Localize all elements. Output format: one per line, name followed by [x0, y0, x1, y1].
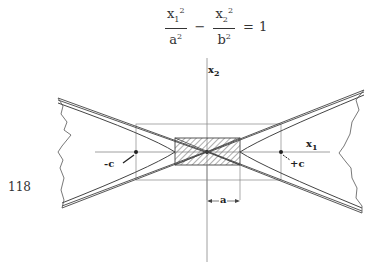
focus-left-arrow — [123, 155, 134, 163]
focus-right-point — [279, 150, 283, 154]
asymptote-upper-left — [58, 98, 207, 152]
focus-left-point — [134, 150, 138, 154]
hyperbola-left-branch — [58, 103, 175, 203]
dimension-label-a: a — [219, 194, 227, 205]
asymptote-upper-right — [207, 90, 364, 152]
hyperbola-right-branch — [240, 95, 364, 208]
asymptote-lower-right — [207, 152, 362, 213]
x2-axis-label: x2 — [208, 64, 220, 78]
focus-right-label: +c — [290, 158, 304, 169]
torn-edge-left — [58, 98, 71, 208]
hyperbola-diagram — [0, 0, 376, 272]
torn-edge-right — [339, 90, 364, 213]
focus-right-arrow — [283, 155, 290, 160]
x1-axis-label: x1 — [306, 138, 318, 152]
focus-left-label: -c — [104, 158, 114, 169]
